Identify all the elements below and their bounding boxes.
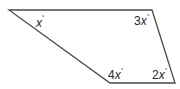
svg-text:°: ° [147, 13, 150, 19]
svg-text:°: ° [121, 67, 124, 73]
angle-label-top-left: x ° [35, 14, 45, 30]
svg-text:4x: 4x [108, 68, 122, 82]
svg-text:°: ° [165, 67, 168, 73]
svg-text:°: ° [42, 14, 45, 20]
svg-text:3x: 3x [134, 14, 148, 28]
svg-text:2x: 2x [152, 68, 166, 82]
angle-label-bottom-right: 2x ° [152, 67, 168, 82]
angle-label-bottom-left: 4x ° [108, 67, 124, 82]
quadrilateral-shape [9, 10, 175, 83]
quadrilateral-diagram: x ° 3x ° 4x ° 2x ° [0, 0, 180, 89]
angle-label-top-right: 3x ° [134, 13, 150, 28]
